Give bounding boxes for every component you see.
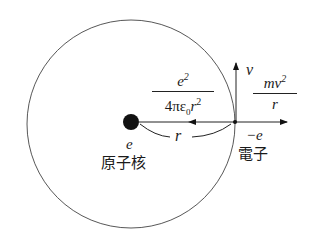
nucleus-name-label: 原子核 (101, 156, 146, 171)
nucleus-charge-label: e (126, 137, 133, 152)
electron-name-label: 電子 (238, 147, 268, 162)
coulomb-force-formula: e2 4πε0r2 (152, 68, 214, 121)
radius-label: r (175, 128, 181, 144)
radius-brace (192, 124, 231, 137)
electron-dot (233, 120, 237, 124)
radius-brace (140, 124, 170, 137)
electron-charge-label: −e (246, 128, 263, 143)
centrifugal-force-formula: mv2 r (253, 70, 297, 113)
nucleus-dot (123, 114, 139, 130)
